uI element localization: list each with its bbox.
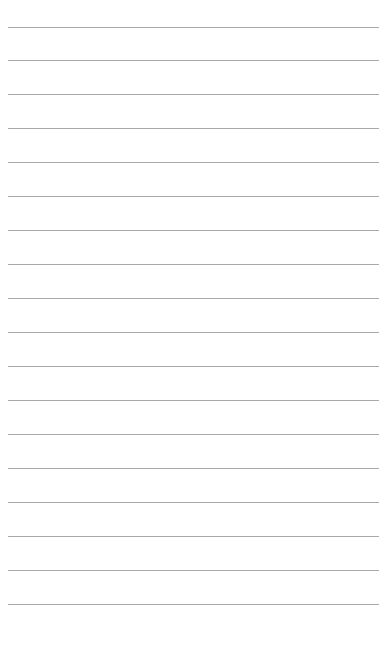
ruled-line <box>8 570 379 571</box>
ruled-line <box>8 434 379 435</box>
ruled-line <box>8 604 379 605</box>
ruled-line <box>8 264 379 265</box>
ruled-line <box>8 400 379 401</box>
ruled-line <box>8 27 379 28</box>
ruled-line <box>8 60 379 61</box>
ruled-line <box>8 298 379 299</box>
ruled-line <box>8 196 379 197</box>
ruled-line <box>8 94 379 95</box>
ruled-line <box>8 468 379 469</box>
ruled-line <box>8 502 379 503</box>
lined-paper-page <box>0 0 388 657</box>
ruled-line <box>8 230 379 231</box>
ruled-line <box>8 162 379 163</box>
ruled-line <box>8 366 379 367</box>
ruled-line <box>8 332 379 333</box>
ruled-line <box>8 536 379 537</box>
ruled-line <box>8 128 379 129</box>
